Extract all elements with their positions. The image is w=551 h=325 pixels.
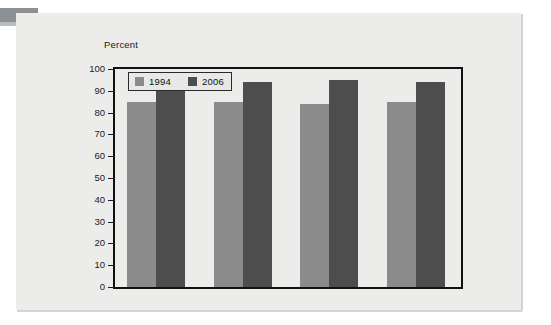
y-axis-tick-mark (108, 156, 115, 157)
plot-frame: 1009080706050403020100 GlassPaperPlastic… (113, 67, 463, 289)
legend-entry-1994: 1994 (135, 76, 171, 87)
panel-edge-bottom (17, 310, 522, 312)
y-axis-tick-mark (108, 265, 115, 266)
bar-paper-2006 (243, 82, 272, 287)
y-axis-tick-mark (108, 287, 115, 288)
y-axis-tick-mark (108, 91, 115, 92)
legend-swatch-1994 (135, 77, 144, 86)
legend-label-1994: 1994 (149, 76, 171, 87)
y-axis-tick-mark (108, 113, 115, 114)
y-axis-tick-label: 10 (94, 259, 105, 270)
y-axis-tick-label: 100 (89, 63, 105, 74)
y-axis-tick-mark (108, 243, 115, 244)
figure-panel: Percent 1009080706050403020100 GlassPape… (16, 13, 521, 310)
bar-metal-cans-2006 (416, 82, 445, 287)
bar-glass-2006 (156, 80, 185, 287)
y-axis-tick-label: 80 (94, 107, 105, 118)
y-axis-tick-label: 90 (94, 85, 105, 96)
legend-swatch-2006 (188, 77, 197, 86)
y-axis-tick-label: 30 (94, 216, 105, 227)
y-axis-title: Percent (104, 39, 138, 50)
bar-metal-cans-1994 (387, 102, 416, 287)
y-axis-tick-label: 70 (94, 128, 105, 139)
y-axis-tick-label: 60 (94, 150, 105, 161)
legend-entry-2006: 2006 (188, 76, 224, 87)
y-axis-tick-label: 40 (94, 194, 105, 205)
chart-legend: 19942006 (128, 72, 232, 91)
y-axis-tick-mark (108, 178, 115, 179)
bar-glass-1994 (127, 102, 156, 287)
y-axis-tick-label: 50 (94, 172, 105, 183)
panel-edge-right (521, 14, 523, 311)
y-axis-tick-mark (108, 200, 115, 201)
bar-paper-1994 (214, 102, 243, 287)
legend-label-2006: 2006 (202, 76, 224, 87)
y-axis-tick-mark (108, 69, 115, 70)
bar-plastic-2006 (329, 80, 358, 287)
y-axis-tick-mark (108, 134, 115, 135)
y-axis-tick-mark (108, 222, 115, 223)
y-axis-tick-label: 20 (94, 237, 105, 248)
bar-plastic-1994 (300, 104, 329, 287)
plot-area: 1009080706050403020100 GlassPaperPlastic… (115, 69, 461, 287)
y-axis-tick-label: 0 (100, 281, 105, 292)
